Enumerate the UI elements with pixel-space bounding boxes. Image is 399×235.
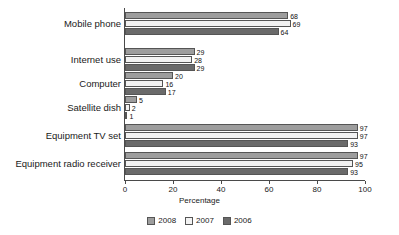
x-tick-label: 40: [217, 185, 226, 194]
legend-swatch-icon: [185, 217, 193, 225]
bar-value-label: 93: [348, 168, 358, 175]
bar-group: 979593: [125, 152, 365, 176]
bar-2007-equipment-radio-receiver[interactable]: [125, 160, 353, 167]
bar-group: 686964: [125, 12, 365, 36]
bar-row: 16: [125, 80, 365, 87]
bar-value-label: 29: [195, 48, 205, 55]
bar-row: 95: [125, 160, 365, 167]
plot-area: 686964292829201617521979793979593 020406…: [125, 8, 365, 180]
legend-swatch-icon: [147, 217, 155, 225]
bar-value-label: 64: [279, 28, 289, 35]
bar-row: 64: [125, 28, 365, 35]
bar-group: 979793: [125, 124, 365, 148]
bar-2006-internet-use[interactable]: [125, 64, 195, 71]
bar-row: 29: [125, 48, 365, 55]
bar-value-label: 28: [192, 56, 202, 63]
bar-2008-equipment-radio-receiver[interactable]: [125, 152, 358, 159]
bar-group: 521: [125, 96, 365, 120]
bar-2007-mobile-phone[interactable]: [125, 20, 291, 27]
category-label-equipment-radio-receiver: Equipment radio receiver: [15, 159, 121, 169]
bar-value-label: 95: [353, 160, 363, 167]
legend-label: 2006: [234, 216, 252, 225]
x-tick: [365, 181, 366, 184]
bar-row: 97: [125, 132, 365, 139]
bar-value-label: 93: [348, 140, 358, 147]
bar-value-label: 16: [163, 80, 173, 87]
x-tick-label: 60: [265, 185, 274, 194]
bar-group: 201617: [125, 72, 365, 96]
bar-row: 5: [125, 96, 365, 103]
bar-2008-equipment-tv-set[interactable]: [125, 124, 358, 131]
bar-2008-internet-use[interactable]: [125, 48, 195, 55]
bar-2006-equipment-tv-set[interactable]: [125, 140, 348, 147]
bar-2007-internet-use[interactable]: [125, 56, 192, 63]
bar-value-label: 97: [358, 124, 368, 131]
bar-value-label: 29: [195, 64, 205, 71]
bar-value-label: 20: [173, 72, 183, 79]
bar-value-label: 97: [358, 152, 368, 159]
x-tick: [269, 181, 270, 184]
bar-value-label: 5: [137, 96, 143, 103]
x-tick-label: 20: [169, 185, 178, 194]
x-tick-label: 80: [313, 185, 322, 194]
bar-value-label: 69: [291, 20, 301, 27]
bar-value-label: 17: [166, 88, 176, 95]
x-tick-label: 0: [123, 185, 127, 194]
x-tick: [173, 181, 174, 184]
legend-item-2006[interactable]: 2006: [223, 216, 252, 225]
bar-value-label: 2: [130, 104, 136, 111]
category-label-internet-use: Internet use: [71, 55, 121, 65]
x-tick: [221, 181, 222, 184]
bar-2006-mobile-phone[interactable]: [125, 28, 279, 35]
bar-row: 69: [125, 20, 365, 27]
bar-row: 28: [125, 56, 365, 63]
bar-2008-mobile-phone[interactable]: [125, 12, 288, 19]
bar-row: 29: [125, 64, 365, 71]
bar-row: 97: [125, 124, 365, 131]
bar-2006-computer[interactable]: [125, 88, 166, 95]
bar-row: 93: [125, 168, 365, 175]
bar-2007-computer[interactable]: [125, 80, 163, 87]
category-label-computer: Computer: [79, 79, 121, 89]
chart-legend: 200820072006: [0, 216, 399, 225]
bar-value-label: 97: [358, 132, 368, 139]
bar-2008-satellite-dish[interactable]: [125, 96, 137, 103]
x-tick: [317, 181, 318, 184]
bar-row: 2: [125, 104, 365, 111]
category-label-satellite-dish: Satellite dish: [67, 103, 121, 113]
legend-item-2008[interactable]: 2008: [147, 216, 176, 225]
legend-label: 2008: [158, 216, 176, 225]
bar-2007-equipment-tv-set[interactable]: [125, 132, 358, 139]
bar-value-label: 68: [288, 12, 298, 19]
legend-swatch-icon: [223, 217, 231, 225]
bar-row: 97: [125, 152, 365, 159]
legend-item-2007[interactable]: 2007: [185, 216, 214, 225]
bar-row: 68: [125, 12, 365, 19]
x-axis-line: [124, 180, 365, 181]
bar-row: 93: [125, 140, 365, 147]
x-tick: [125, 181, 126, 184]
bar-row: 17: [125, 88, 365, 95]
bar-group: 292829: [125, 48, 365, 72]
category-label-mobile-phone: Mobile phone: [64, 19, 121, 29]
x-axis-title: Percentage: [0, 196, 399, 205]
bar-value-label: 1: [127, 112, 133, 119]
x-tick-label: 100: [358, 185, 371, 194]
bar-2006-equipment-radio-receiver[interactable]: [125, 168, 348, 175]
bar-row: 20: [125, 72, 365, 79]
bar-chart: 686964292829201617521979793979593 020406…: [0, 0, 399, 235]
bar-2008-computer[interactable]: [125, 72, 173, 79]
legend-label: 2007: [196, 216, 214, 225]
bar-row: 1: [125, 112, 365, 119]
category-label-equipment-tv-set: Equipment TV set: [46, 131, 121, 141]
